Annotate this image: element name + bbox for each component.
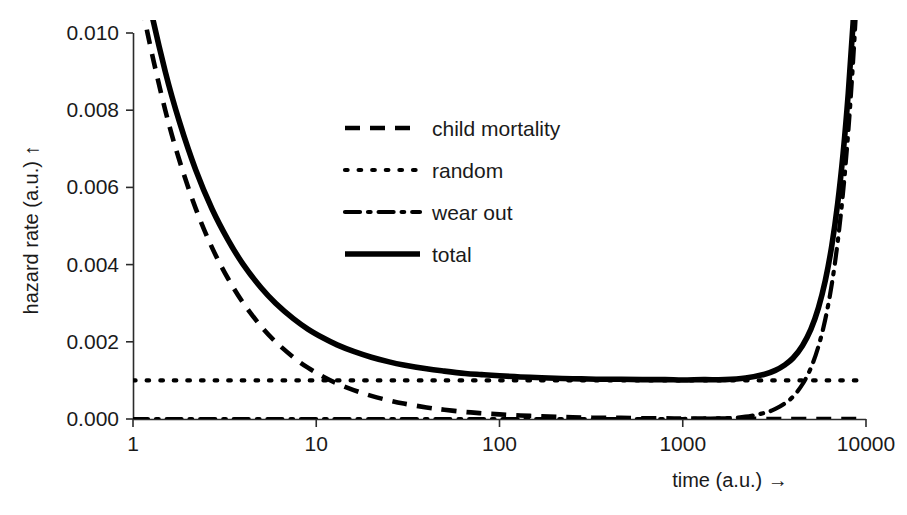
y-tick-label: 0.008 [66, 98, 119, 121]
x-tick-label: 10000 [837, 432, 895, 455]
legend-label: child mortality [432, 117, 561, 140]
x-axis-title: time (a.u.) → [672, 469, 788, 491]
x-tick-label: 10 [305, 432, 328, 455]
chart-canvas: 0.0000.0020.0040.0060.0080.010 110100100… [0, 0, 907, 515]
y-axis-ticks: 0.0000.0020.0040.0060.0080.010 [66, 21, 133, 430]
y-axis-title: hazard rate (a.u.) ↑ [20, 146, 42, 315]
legend-label: total [432, 243, 472, 266]
y-tick-label: 0.004 [66, 253, 119, 276]
y-tick-label: 0.006 [66, 175, 119, 198]
x-tick-label: 100 [482, 432, 517, 455]
x-tick-label: 1000 [659, 432, 706, 455]
x-axis-ticks: 110100100010000 [127, 419, 895, 455]
y-tick-label: 0.000 [66, 407, 119, 430]
y-tick-label: 0.010 [66, 21, 119, 44]
x-tick-label: 1 [127, 432, 139, 455]
chart-legend: child mortalityrandomwear outtotal [345, 117, 561, 266]
bathtub-curve-figure: 0.0000.0020.0040.0060.0080.010 110100100… [0, 0, 907, 515]
legend-label: random [432, 159, 503, 182]
y-tick-label: 0.002 [66, 330, 119, 353]
series-total [133, 0, 866, 380]
legend-label: wear out [431, 201, 513, 224]
